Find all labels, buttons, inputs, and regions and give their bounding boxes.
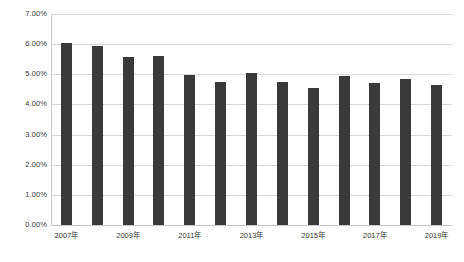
x-axis-tick-label: 2015年 xyxy=(283,231,343,240)
x-axis-tick-label: 2011年 xyxy=(160,231,220,240)
bar xyxy=(369,83,380,225)
bar xyxy=(246,73,257,225)
bar xyxy=(277,82,288,225)
x-axis-tick-label: 2017年 xyxy=(345,231,405,240)
bar-chart: 7.00%6.00%5.00%4.00%3.00%2.00%1.00%0.00%… xyxy=(0,0,464,262)
y-axis-tick-label: 2.00% xyxy=(3,161,47,169)
y-axis-tick-label: 6.00% xyxy=(3,40,47,48)
x-axis-tick-label: 2019年 xyxy=(407,231,464,240)
bar xyxy=(153,56,164,225)
plot-area xyxy=(51,14,452,225)
x-axis-tick-label: 2013年 xyxy=(222,231,282,240)
bar xyxy=(431,85,442,225)
gridline xyxy=(51,14,452,15)
y-axis-tick-label: 7.00% xyxy=(3,10,47,18)
y-axis-tick-label: 3.00% xyxy=(3,131,47,139)
bar xyxy=(400,79,411,225)
bar xyxy=(339,76,350,225)
x-axis-tick-label: 2009年 xyxy=(98,231,158,240)
bar xyxy=(61,43,72,225)
bar xyxy=(215,82,226,225)
y-axis-tick-label: 4.00% xyxy=(3,100,47,108)
y-axis-tick-label: 1.00% xyxy=(3,191,47,199)
y-axis-tick-label: 5.00% xyxy=(3,70,47,78)
bar xyxy=(308,88,319,225)
gridline xyxy=(51,225,452,226)
bar xyxy=(92,46,103,225)
gridline xyxy=(51,44,452,45)
bar xyxy=(123,57,134,225)
bar xyxy=(184,75,195,225)
x-axis-tick-label: 2007年 xyxy=(36,231,96,240)
y-axis-tick-label: 0.00% xyxy=(3,221,47,229)
